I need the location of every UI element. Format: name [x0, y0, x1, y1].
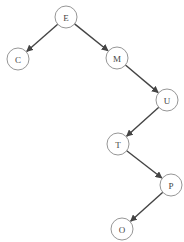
tree-node-u: U: [156, 89, 178, 111]
node-label: P: [168, 181, 173, 191]
nodes-layer: ECMUTPO: [7, 6, 182, 240]
node-label: U: [164, 96, 171, 106]
node-label: O: [119, 225, 126, 235]
node-label: T: [115, 140, 121, 150]
edge-p-o: [131, 192, 163, 221]
tree-node-m: M: [106, 47, 128, 69]
edge-e-c: [27, 24, 58, 51]
node-label: M: [113, 54, 121, 64]
edges-layer: [27, 24, 163, 221]
edge-u-t: [127, 107, 159, 136]
tree-diagram: ECMUTPO: [0, 0, 184, 242]
tree-node-p: P: [160, 174, 182, 196]
edge-t-p: [127, 151, 162, 178]
edge-m-u: [125, 65, 158, 93]
tree-node-c: C: [7, 48, 29, 70]
tree-node-t: T: [107, 133, 129, 155]
node-label: C: [15, 55, 21, 65]
node-label: E: [63, 13, 69, 23]
edge-e-m: [75, 24, 108, 51]
tree-node-o: O: [111, 218, 133, 240]
tree-node-e: E: [55, 6, 77, 28]
